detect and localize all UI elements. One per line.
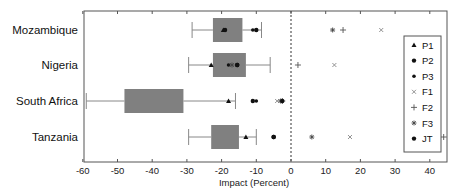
legend-label: F3 [422, 118, 433, 129]
x-tick-label: -60 [76, 165, 90, 176]
data-point-dot-icon [235, 63, 239, 67]
legend-label: P3 [422, 71, 434, 82]
legend-dot-small-icon [412, 74, 416, 78]
x-axis-title: Impact (Percent) [219, 177, 289, 188]
box-plot-chart: MozambiqueNigeriaSouth AfricaTanzania -6… [0, 0, 463, 191]
data-point-dot-icon [223, 28, 227, 32]
iqr-box [124, 89, 183, 113]
data-point-x-icon [348, 135, 352, 139]
series-f3 [230, 28, 336, 140]
data-point-star-icon [330, 28, 335, 33]
series-p3 [227, 28, 276, 139]
data-point-plus-icon [441, 134, 447, 140]
iqr-box [211, 125, 239, 149]
data-point-dot-icon [251, 99, 255, 103]
iqr-box [213, 18, 242, 42]
category-label: Nigeria [42, 59, 79, 71]
data-point-x-icon [379, 28, 383, 32]
box-south-africa [86, 89, 235, 113]
x-tick-label: 0 [288, 165, 293, 176]
data-point-dot-small-icon [254, 99, 258, 103]
x-tick-label: -30 [180, 165, 194, 176]
x-tick-label: -10 [249, 165, 263, 176]
series-p1 [209, 28, 249, 140]
legend-dot-icon [412, 58, 416, 62]
legend-dot-icon [412, 136, 416, 140]
legend-star-icon [412, 121, 417, 126]
data-point-dot-icon [280, 99, 284, 103]
data-point-dot-icon [271, 135, 275, 139]
box-series [86, 18, 270, 149]
data-point-star-icon [309, 135, 314, 140]
legend-label: JT [422, 133, 433, 144]
data-point-plus-icon [340, 27, 346, 33]
x-tick-label: -40 [145, 165, 159, 176]
legend-label: P2 [422, 55, 434, 66]
x-tick-label: 20 [355, 165, 366, 176]
plot-border [84, 11, 447, 162]
legend: P1P2P3F1F2F3JT [404, 36, 441, 152]
category-label: Tanzania [32, 131, 79, 143]
series-jt [235, 28, 285, 139]
series-p2 [223, 28, 276, 139]
category-label: South Africa [16, 95, 79, 107]
category-axis-labels: MozambiqueNigeriaSouth AfricaTanzania [12, 24, 78, 143]
x-tick-label: -50 [111, 165, 125, 176]
category-label: Mozambique [12, 24, 78, 36]
plot-area [84, 11, 447, 162]
legend-label: P1 [422, 40, 434, 51]
legend-label: F2 [422, 102, 433, 113]
x-tick-label: -20 [215, 165, 229, 176]
data-point-x-icon [332, 63, 336, 67]
data-point-dot-small-icon [251, 28, 255, 32]
x-tick-label: 30 [390, 165, 401, 176]
x-tick-label: 40 [425, 165, 436, 176]
x-tick-label: 10 [320, 165, 331, 176]
data-point-plus-icon [295, 62, 301, 68]
data-point-dot-icon [254, 28, 258, 32]
data-point-star-icon [230, 63, 235, 68]
legend-label: F1 [422, 86, 433, 97]
